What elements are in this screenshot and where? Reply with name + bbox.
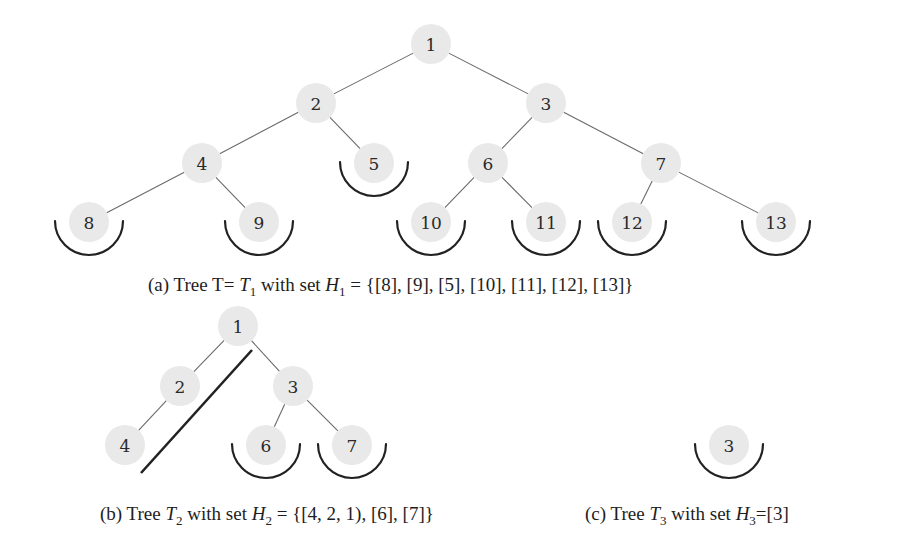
caption-c-mid: with set [666,503,735,524]
edges-layer [107,53,758,431]
tree-a-node-1: 1 [411,24,451,64]
node-label: 7 [656,154,667,174]
caption-b-tree-name: T [165,503,176,524]
caption-c-set-name: H [736,503,750,524]
tree-a-edge-3-6 [502,117,532,148]
caption-c: (c) Tree T3 with set H3=[3] [585,503,789,529]
node-label: 1 [233,317,244,337]
tree-a-edge-3-7 [564,112,644,153]
tree-a-edge-2-4 [220,112,299,153]
node-label: 2 [175,377,186,397]
tree-a-edge-7-13 [679,172,758,213]
caption-c-set-value: =[3] [756,503,789,524]
caption-c-label: (c) [585,503,606,524]
tree-a-node-12: 12 [612,202,652,242]
tree-a-node-2: 2 [296,83,336,123]
caption-c-tree-name: T [649,503,660,524]
tree-b-edge-2-4 [139,401,167,431]
node-label: 8 [84,213,95,233]
caption-a-prefix: Tree T= [174,274,240,295]
tree-a-node-4: 4 [182,143,222,183]
tree-b-edge-3-6 [274,404,284,427]
node-label: 4 [120,436,131,456]
node-label: 4 [197,154,208,174]
tree-a-edge-4-8 [107,172,185,212]
node-label: 10 [420,213,442,233]
caption-a-set-value: = {[8], [9], [5], [10], [11], [12], [13]… [346,274,634,295]
tree-a-node-8: 8 [69,202,109,242]
tree-a-edge-2-5 [330,117,360,148]
tree-a-node-11: 11 [526,202,566,242]
tree-b-edge-1-2 [194,340,224,371]
caption-b-set-name: H [252,503,266,524]
caption-b: (b) Tree T2 with set H2 = {[4, 2, 1), [6… [100,503,434,529]
tree-c-node-3: 3 [709,425,749,465]
node-label: 7 [347,436,358,456]
tree-a-node-3: 3 [526,83,566,123]
tree-b-node-6: 6 [246,425,286,465]
node-label: 2 [311,94,322,114]
node-label: 5 [369,154,380,174]
node-label: 13 [765,213,787,233]
node-label: 9 [254,213,265,233]
tree-b-node-4: 4 [105,425,145,465]
tree-b-node-2: 2 [160,366,200,406]
caption-c-prefix: Tree [611,503,650,524]
caption-a-tree-name: T [239,274,250,295]
tree-b-node-3: 3 [273,366,313,406]
caption-a-set-name: H [325,274,339,295]
caption-b-label: (b) [100,503,122,524]
caption-a-mid: with set [256,274,325,295]
tree-a-edge-4-9 [216,177,245,207]
caption-b-set-value: = {[4, 2, 1), [6], [7]} [272,503,434,524]
tree-a-node-13: 13 [756,202,796,242]
tree-a-node-10: 10 [411,202,451,242]
tree-a-node-5: 5 [354,143,394,183]
tree-b-edge-3-7 [307,400,338,431]
tree-a-node-9: 9 [239,202,279,242]
node-label: 12 [621,213,643,233]
caption-a: (a) Tree T= T1 with set H1 = {[8], [9], … [148,274,633,300]
caption-a-label: (a) [148,274,169,295]
tree-b-edge-1-3 [252,341,280,372]
nodes-layer: 123456789101112131234673 [69,24,796,465]
node-label: 3 [288,377,299,397]
caption-b-prefix: Tree [127,503,166,524]
node-label: 3 [541,94,552,114]
node-label: 3 [724,436,735,456]
tree-a-node-6: 6 [468,143,508,183]
node-label: 6 [483,154,494,174]
tree-diagram-canvas: 123456789101112131234673 [0,0,911,542]
node-label: 11 [535,213,557,233]
tree-a-edge-6-11 [502,177,532,207]
tree-a-edge-6-10 [445,177,474,207]
tree-b-node-7: 7 [332,425,372,465]
tree-a-edge-1-3 [449,53,528,94]
caption-b-mid: with set [183,503,252,524]
node-label: 1 [426,35,437,55]
tree-a-node-7: 7 [641,143,681,183]
tree-a-edge-1-2 [334,53,413,94]
node-label: 6 [261,436,272,456]
tree-a-edge-7-12 [641,181,652,204]
tree-b-node-1: 1 [218,306,258,346]
